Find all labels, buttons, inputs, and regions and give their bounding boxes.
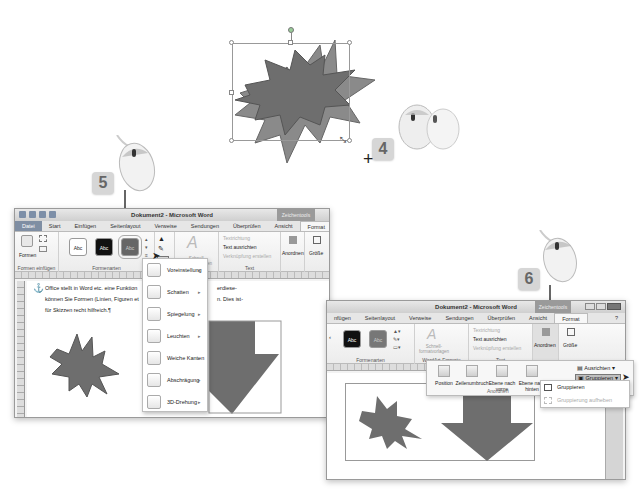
menu-item-label: 3D-Drehung: [167, 399, 197, 405]
textrichtung-button[interactable]: Textrichtung: [473, 327, 500, 333]
minimize-button[interactable]: [585, 303, 595, 310]
anordnen-button[interactable]: Anordnen: [282, 250, 304, 256]
style-swatch-white[interactable]: Abc: [69, 238, 87, 256]
arrow-shape[interactable]: [207, 319, 307, 418]
tab-einfuegen[interactable]: Einfügen: [67, 221, 103, 231]
schnellformat-button[interactable]: Schnell-formatvorlagen: [417, 344, 451, 354]
menu-item-voreinstellung[interactable]: Voreinstellung▸: [143, 259, 207, 281]
groesse-button[interactable]: Größe: [309, 250, 323, 256]
starburst-shape[interactable]: [357, 391, 427, 451]
menu-item-label: Gruppierung aufheben: [557, 397, 612, 403]
effect-thumb-icon: [147, 285, 161, 299]
group-groesse: Größe: [559, 324, 585, 364]
arrange-icon[interactable]: [289, 236, 297, 244]
rotate-handle-stem: [291, 33, 292, 41]
style-swatch-gray[interactable]: Abc: [121, 238, 139, 256]
effect-thumb-icon: [147, 263, 161, 277]
tab-start[interactable]: Start: [42, 221, 68, 231]
shape-format-icons[interactable]: ▲▾✎▾▭▾: [393, 327, 401, 351]
menu-item-gruppieren[interactable]: Gruppieren: [541, 381, 629, 394]
edit-shape-icon[interactable]: [39, 235, 47, 242]
menu-item-label: Leuchten: [167, 333, 190, 339]
tab-ansicht[interactable]: Ansicht: [522, 313, 554, 323]
style-swatch-gray[interactable]: Abc: [369, 330, 387, 348]
zeilenumbruch-button[interactable]: Zeilenumbruch: [455, 365, 489, 386]
shape-effects-menu: Voreinstellung▸ Schatten▸ Spiegelung▸ Le…: [142, 258, 208, 412]
verknuepfung-button[interactable]: Verknüpfung erstellen: [223, 253, 271, 259]
group-label: Anordnen: [487, 388, 509, 394]
selection-box-top: [232, 43, 350, 141]
group-text: Textrichtung Text ausrichten Verknüpfung…: [469, 324, 533, 364]
formen-button[interactable]: Formen: [19, 252, 36, 258]
button-label: Ausrichten: [584, 365, 610, 371]
size-icon[interactable]: [567, 328, 575, 336]
ribbon: ‹ Abc Abc ▲▾✎▾▭▾ Formenarten A Schnell-f…: [327, 324, 625, 364]
mouse-icon: [112, 135, 162, 199]
menu-item-label: Voreinstellung: [167, 267, 202, 273]
textrichtung-button[interactable]: Textrichtung: [223, 235, 250, 241]
tab-verweise[interactable]: Verweise: [402, 313, 438, 323]
gallery-scroll[interactable]: ▴▾≡: [145, 235, 148, 259]
anchor-icon: ⚓: [33, 283, 44, 293]
submenu-arrow-icon: ▸: [198, 289, 201, 295]
gallery-left-button[interactable]: ‹: [329, 334, 331, 340]
group-label: Formen einfügen: [15, 265, 58, 271]
wordart-a-icon[interactable]: A: [187, 234, 198, 252]
title-bar: Dokument2 - Microsoft Word Zeichentools: [15, 209, 329, 221]
ribbon-tabs: nfügen Seitenlayout Verweise Sendungen Ü…: [327, 313, 625, 324]
vertical-ruler[interactable]: [17, 281, 25, 418]
anordnen-button[interactable]: Anordnen: [534, 342, 556, 348]
menu-item-spiegelung[interactable]: Spiegelung▸: [143, 303, 207, 325]
arrange-icon[interactable]: [542, 328, 550, 336]
starburst-shape[interactable]: [47, 329, 127, 399]
vertical-scrollbar[interactable]: [605, 401, 623, 479]
menu-item-abschraegung[interactable]: Abschrägung▸: [143, 369, 207, 391]
text-line: n. Dies ist-: [217, 294, 243, 305]
fill-icon[interactable]: ▲: [158, 235, 165, 242]
tab-sendungen[interactable]: Sendungen: [184, 221, 226, 231]
group-icon: [544, 384, 552, 391]
menu-item-leuchten[interactable]: Leuchten▸: [143, 325, 207, 347]
resize-handle[interactable]: [229, 138, 234, 143]
effect-thumb-icon: [147, 329, 161, 343]
tab-ueberpruefen[interactable]: Überprüfen: [226, 221, 268, 231]
ausrichten-button[interactable]: ▤ Ausrichten ▾: [577, 365, 615, 371]
wordart-a-icon[interactable]: A: [427, 326, 436, 342]
resize-handle[interactable]: [229, 40, 234, 45]
menu-item-gruppierung-aufheben[interactable]: Gruppierung aufheben: [541, 394, 629, 407]
size-icon[interactable]: [313, 236, 321, 244]
tab-datei[interactable]: Datei: [15, 221, 42, 231]
tab-ansicht[interactable]: Ansicht: [267, 221, 299, 231]
help-icon[interactable]: ?: [608, 313, 625, 323]
textbox-icon[interactable]: [39, 246, 47, 252]
menu-item-label: Schatten: [167, 289, 189, 295]
style-swatch-black[interactable]: Abc: [343, 330, 361, 348]
resize-handle[interactable]: [347, 40, 352, 45]
style-swatch-black[interactable]: Abc: [95, 238, 113, 256]
tab-einfuegen[interactable]: nfügen: [327, 313, 358, 323]
text-ausrichten-button[interactable]: Text ausrichten: [473, 336, 507, 342]
shapes-icon[interactable]: [21, 235, 33, 247]
menu-item-weiche-kanten[interactable]: Weiche Kanten▸: [143, 347, 207, 369]
tab-format[interactable]: Format: [554, 313, 587, 323]
tab-seitenlayout[interactable]: Seitenlayout: [103, 221, 147, 231]
tab-sendungen[interactable]: Sendungen: [438, 313, 480, 323]
menu-item-3d-drehung[interactable]: 3D-Drehung▸: [143, 391, 207, 413]
text-ausrichten-button[interactable]: Text ausrichten: [223, 244, 257, 250]
maximize-button[interactable]: [596, 303, 606, 310]
mouse-icon: [535, 230, 585, 294]
tab-seitenlayout[interactable]: Seitenlayout: [358, 313, 402, 323]
tab-verweise[interactable]: Verweise: [147, 221, 183, 231]
verknuepfung-button[interactable]: Verknüpfung erstellen: [473, 345, 521, 351]
button-label: Position: [435, 380, 453, 386]
resize-handle[interactable]: [229, 90, 234, 95]
groesse-button[interactable]: Größe: [563, 342, 577, 348]
menu-item-label: Spiegelung: [167, 311, 195, 317]
effect-thumb-icon: [147, 351, 161, 365]
tab-ueberpruefen[interactable]: Überprüfen: [481, 313, 523, 323]
tab-format[interactable]: Format: [300, 221, 330, 231]
text-line: erdiese-: [217, 283, 243, 294]
close-button[interactable]: [607, 303, 621, 310]
group-text: Textrichtung Text ausrichten Verknüpfung…: [219, 232, 281, 272]
menu-item-schatten[interactable]: Schatten▸: [143, 281, 207, 303]
